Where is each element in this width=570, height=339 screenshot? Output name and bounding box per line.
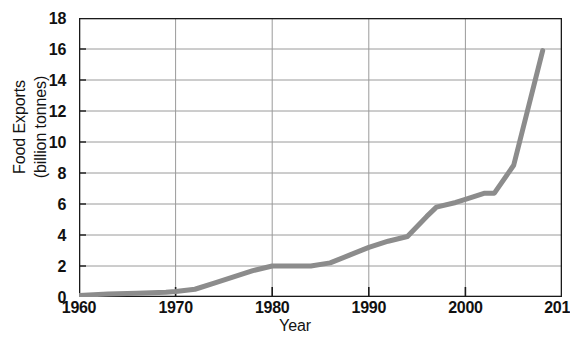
axis-ticks: [79, 18, 562, 297]
x-tick-label: 1980: [255, 299, 289, 317]
line-chart: Food Exports (billion tonnes) 0246810121…: [0, 0, 570, 339]
x-tick-label: 1960: [62, 299, 96, 317]
x-tick-label: 2000: [448, 299, 482, 317]
plot-svg: [79, 18, 562, 297]
x-axis-title-text: Year: [279, 317, 311, 334]
x-tick-label: 201: [544, 299, 570, 317]
x-axis-title: Year: [0, 317, 570, 335]
plot-frame: [80, 19, 562, 297]
x-tick-label: 1990: [352, 299, 386, 317]
gridlines: [79, 18, 562, 297]
x-tick-label: 1970: [158, 299, 192, 317]
plot-area: [79, 18, 562, 297]
